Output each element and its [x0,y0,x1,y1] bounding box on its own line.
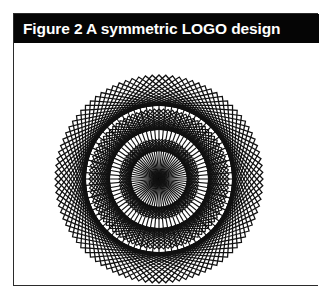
logo-design-canvas [14,43,319,285]
symmetric-logo-design-graphic [14,43,319,285]
figure-frame: Figure 2 A symmetric LOGO design [13,13,318,286]
figure-caption-bar: Figure 2 A symmetric LOGO design [14,14,319,43]
figure-caption-text: Figure 2 A symmetric LOGO design [14,21,281,37]
